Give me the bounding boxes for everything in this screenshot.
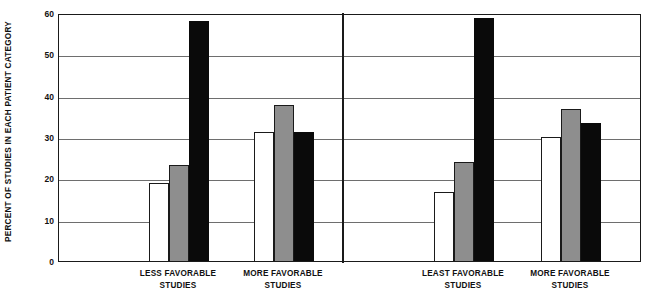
y-axis-title: PERCENT OF STUDIES IN EACH PATIENT CATEG… — [0, 0, 18, 262]
gridline — [59, 98, 640, 99]
y-tick-label: 0 — [26, 257, 54, 267]
x-category-label: LESS FAVORABLESTUDIES — [118, 268, 238, 291]
x-category-label-line1: MORE FAVORABLE — [243, 269, 323, 278]
gridline — [59, 56, 640, 57]
y-tick-label: 10 — [26, 216, 54, 226]
bar-white-group-3 — [541, 137, 561, 261]
y-axis-ticks: 0102030405060 — [22, 0, 54, 299]
x-category-label-line1: LESS FAVORABLE — [140, 269, 216, 278]
panel-divider — [342, 13, 344, 262]
x-category-label-line2: STUDIES — [223, 280, 343, 292]
y-axis-title-text: PERCENT OF STUDIES IN EACH PATIENT CATEG… — [5, 20, 14, 241]
x-category-label-line1: LEAST FAVORABLE — [422, 269, 504, 278]
x-category-label: LEAST FAVORABLESTUDIES — [403, 268, 523, 291]
bar-white-group-0 — [149, 183, 169, 261]
bar-gray-group-0 — [169, 165, 189, 261]
x-category-label: MORE FAVORABLESTUDIES — [223, 268, 343, 291]
y-tick-label: 30 — [26, 133, 54, 143]
bar-black-group-0 — [189, 21, 209, 261]
x-category-label-line1: MORE FAVORABLE — [530, 269, 610, 278]
x-category-label-line2: STUDIES — [403, 280, 523, 292]
bar-gray-group-2 — [454, 162, 474, 261]
bar-white-group-1 — [254, 132, 274, 261]
bar-black-group-2 — [474, 18, 494, 261]
y-tick-label: 60 — [26, 9, 54, 19]
bar-white-group-2 — [434, 192, 454, 261]
x-category-label-line2: STUDIES — [510, 280, 630, 292]
bar-black-group-1 — [294, 132, 314, 261]
y-tick-label: 40 — [26, 92, 54, 102]
bar-black-group-3 — [581, 123, 601, 261]
bar-gray-group-1 — [274, 105, 294, 261]
chart-figure: PERCENT OF STUDIES IN EACH PATIENT CATEG… — [0, 0, 656, 299]
y-tick-label: 20 — [26, 174, 54, 184]
plot-area — [58, 14, 641, 262]
x-category-label-line2: STUDIES — [118, 280, 238, 292]
x-category-label: MORE FAVORABLESTUDIES — [510, 268, 630, 291]
bar-gray-group-3 — [561, 109, 581, 261]
y-tick-label: 50 — [26, 50, 54, 60]
